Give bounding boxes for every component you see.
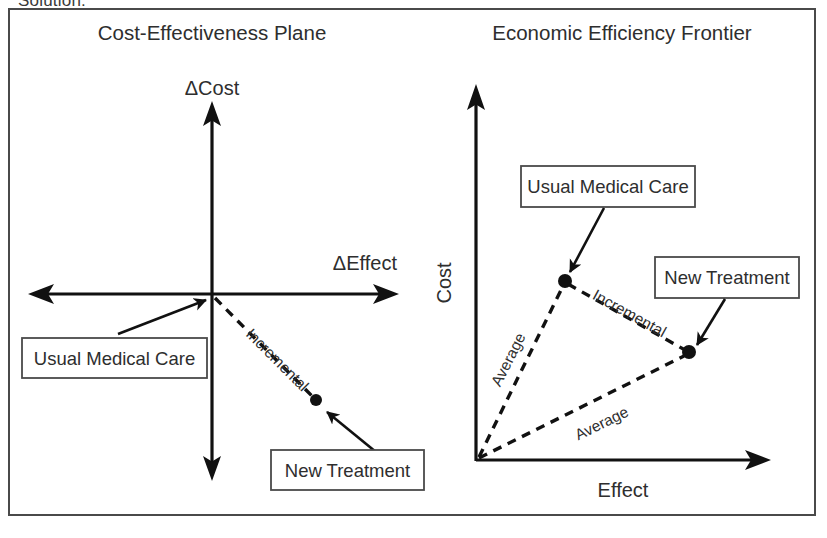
callout-label-usual-medical-care-left: Usual Medical Care xyxy=(34,348,195,369)
callout-label-usual-medical-care-right: Usual Medical Care xyxy=(527,176,688,197)
callout-label-new-treatment-left: New Treatment xyxy=(285,460,410,481)
line-label-incremental-left: Incremental xyxy=(243,325,312,394)
panel-economic-efficiency-frontier: Economic Efficiency Frontier Cost Effect… xyxy=(433,21,799,501)
panel-title-right: Economic Efficiency Frontier xyxy=(492,21,752,44)
panel-title-left: Cost-Effectiveness Plane xyxy=(98,21,327,44)
leader-new-treatment-right xyxy=(697,299,725,345)
data-point-usual-medical-care-right xyxy=(558,274,572,288)
y-axis-right xyxy=(467,84,485,461)
data-point-new-treatment-left xyxy=(310,394,322,406)
leader-usual-medical-care-left xyxy=(118,300,206,334)
x-axis-label-right: Effect xyxy=(598,479,649,501)
y-axis-label-left: ΔCost xyxy=(185,77,240,99)
y-axis-left xyxy=(203,101,221,481)
x-axis-label-left: ΔEffect xyxy=(333,252,398,274)
data-point-new-treatment-right xyxy=(682,345,696,359)
leader-new-treatment-left xyxy=(327,412,376,452)
line-label-average-umc: Average xyxy=(487,330,528,389)
leader-usual-medical-care-right xyxy=(570,208,604,272)
figure-root: Solution: Cost-Effectiveness Plane xyxy=(0,0,827,538)
panel-cost-effectiveness-plane: Cost-Effectiveness Plane ΔCost ΔEffect I… xyxy=(22,21,424,490)
figure-canvas: Cost-Effectiveness Plane ΔCost ΔEffect I… xyxy=(0,0,827,538)
x-axis-right xyxy=(476,450,771,470)
y-axis-label-right: Cost xyxy=(433,262,455,304)
callout-label-new-treatment-right: New Treatment xyxy=(664,267,789,288)
